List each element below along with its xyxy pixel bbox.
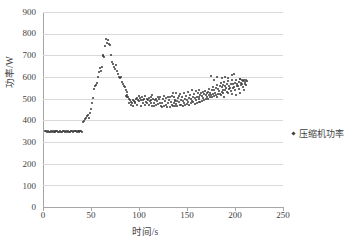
x-tick-label: 0 (28, 211, 58, 220)
data-point (190, 102, 192, 104)
data-point (89, 112, 91, 114)
data-point (163, 105, 165, 107)
y-axis-title: 功率/W (2, 56, 16, 88)
data-point (161, 102, 163, 104)
data-point (246, 80, 248, 82)
x-tick-label: 150 (172, 211, 202, 220)
data-point (167, 102, 169, 104)
data-point (172, 105, 174, 107)
data-point (156, 100, 158, 102)
data-point (83, 120, 85, 122)
data-point (213, 95, 215, 97)
chart-legend: 压缩机功率 (292, 127, 344, 140)
y-tick-label: 400 (10, 116, 36, 125)
data-point (232, 87, 234, 89)
data-point (185, 95, 187, 97)
data-point (233, 73, 235, 75)
data-point (91, 102, 93, 104)
data-point (216, 96, 218, 98)
data-point (109, 44, 111, 46)
data-point (194, 103, 196, 105)
data-point (176, 105, 178, 107)
data-point (144, 95, 146, 97)
data-point (169, 106, 171, 108)
data-point (223, 81, 225, 83)
y-tick-label: 500 (10, 95, 36, 104)
data-point (143, 98, 145, 100)
data-point (197, 92, 199, 94)
data-point (175, 92, 177, 94)
data-point (90, 108, 92, 110)
data-point (126, 91, 128, 93)
data-point (146, 98, 148, 100)
x-tick-label: 250 (268, 211, 298, 220)
gridline (43, 55, 283, 56)
data-point (235, 79, 237, 81)
data-point (144, 104, 146, 106)
data-point (150, 96, 152, 98)
gridline (43, 34, 283, 35)
data-point (140, 105, 142, 107)
data-point (171, 95, 173, 97)
data-point (103, 56, 105, 58)
x-tick-label: 50 (76, 211, 106, 220)
y-tick-label: 200 (10, 160, 36, 169)
data-point (205, 98, 207, 100)
data-point (220, 94, 222, 96)
data-point (212, 93, 214, 95)
data-point (182, 105, 184, 107)
gridline (43, 164, 283, 165)
data-point (193, 93, 195, 95)
data-point (231, 93, 233, 95)
data-point (148, 104, 150, 106)
data-point (208, 88, 210, 90)
data-point (93, 88, 95, 90)
data-point (198, 89, 200, 91)
data-point (181, 96, 183, 98)
data-point (231, 79, 233, 81)
x-tick-label: 200 (220, 211, 250, 220)
data-point (151, 94, 153, 96)
data-point (104, 45, 106, 47)
data-point (227, 77, 229, 79)
data-point (191, 89, 193, 91)
data-point (241, 79, 243, 81)
data-point (170, 101, 172, 103)
data-point (179, 93, 181, 95)
gridline (43, 185, 283, 186)
data-point (100, 70, 102, 72)
gridline (43, 120, 283, 121)
data-point (164, 100, 166, 102)
data-point (227, 92, 229, 94)
gridline (43, 12, 283, 13)
y-tick-label: 300 (10, 138, 36, 147)
data-point (92, 97, 94, 99)
data-point (142, 99, 144, 101)
data-point (157, 103, 159, 105)
data-point (220, 82, 222, 84)
data-point (178, 95, 180, 97)
data-point (178, 101, 180, 103)
data-point (81, 131, 83, 133)
x-axis-title: 时间/s (0, 224, 290, 238)
y-tick-label: 900 (10, 8, 36, 17)
plot-area (43, 12, 283, 207)
gridline (43, 142, 283, 143)
data-point (96, 82, 98, 84)
data-point (101, 66, 103, 68)
scatter-chart: 900 800 700 600 500 400 300 200 100 0 0 … (0, 0, 355, 243)
data-point (221, 77, 223, 79)
data-point (183, 92, 185, 94)
data-point (115, 64, 117, 66)
gridline (43, 207, 283, 208)
data-point (234, 89, 236, 91)
data-point (188, 104, 190, 106)
data-point (243, 89, 245, 91)
data-point (87, 114, 89, 116)
data-point (112, 63, 114, 65)
data-point (236, 85, 238, 87)
data-point (212, 86, 214, 88)
data-point (221, 91, 223, 93)
data-point (213, 79, 215, 81)
data-point (244, 83, 246, 85)
